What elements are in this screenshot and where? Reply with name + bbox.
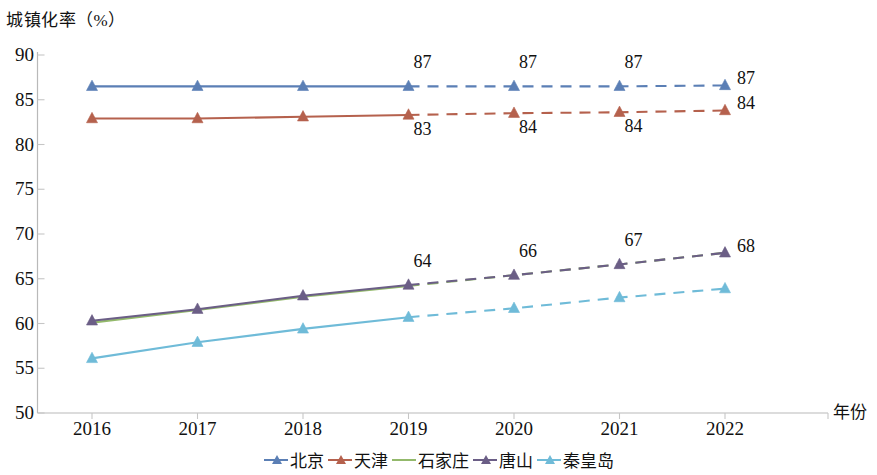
- series-line-dashed: [409, 85, 726, 86]
- data-point-marker: [720, 104, 731, 114]
- series-4: [87, 282, 731, 362]
- series-line-dashed: [409, 253, 726, 285]
- series-line-solid: [92, 317, 409, 358]
- legend-item-0[interactable]: 北京: [264, 447, 324, 472]
- series-line-dashed: [409, 289, 726, 318]
- data-label: 87: [414, 52, 432, 73]
- data-point-marker: [509, 269, 520, 279]
- data-point-marker: [720, 247, 731, 257]
- legend-label: 秦皇岛: [563, 447, 614, 472]
- data-label: 66: [519, 241, 537, 262]
- series-line-dashed: [409, 110, 726, 114]
- data-label: 83: [414, 119, 432, 140]
- data-point-marker: [509, 107, 520, 117]
- legend-label: 北京: [290, 447, 324, 472]
- legend-swatch-icon: [473, 453, 497, 467]
- legend-swatch-icon: [392, 453, 416, 467]
- data-label: 87: [737, 68, 755, 89]
- legend-swatch-icon: [264, 453, 288, 467]
- legend-swatch-icon: [328, 453, 352, 467]
- data-label: 84: [737, 93, 755, 114]
- data-label: 68: [737, 236, 755, 257]
- data-label: 67: [625, 230, 643, 251]
- legend-swatch-icon: [537, 453, 561, 467]
- legend-item-2[interactable]: 石家庄: [392, 447, 469, 472]
- legend-label: 石家庄: [418, 447, 469, 472]
- legend-item-1[interactable]: 天津: [328, 447, 388, 472]
- data-label: 64: [414, 251, 432, 272]
- urbanization-rate-line-chart: 城镇化率（%） 年份 908580757065605550 2016201720…: [0, 0, 877, 475]
- data-label: 87: [625, 52, 643, 73]
- data-point-marker: [509, 302, 520, 312]
- series-0: [87, 79, 731, 90]
- legend-label: 唐山: [499, 447, 533, 472]
- legend-item-3[interactable]: 唐山: [473, 447, 533, 472]
- data-label: 84: [519, 117, 537, 138]
- series-line-solid: [92, 115, 409, 119]
- data-point-marker: [720, 282, 731, 292]
- legend-label: 天津: [354, 447, 388, 472]
- data-label: 84: [625, 116, 643, 137]
- legend-item-4[interactable]: 秦皇岛: [537, 447, 614, 472]
- series-line-solid: [92, 285, 409, 321]
- chart-legend: 北京天津石家庄唐山秦皇岛: [0, 447, 877, 472]
- series-line-solid: [92, 286, 409, 323]
- data-label: 87: [519, 52, 537, 73]
